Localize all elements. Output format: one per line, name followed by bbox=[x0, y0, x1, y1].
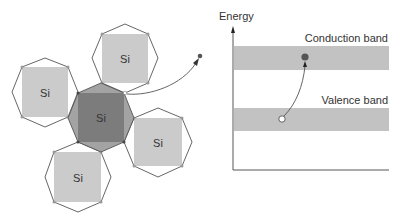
atom-label: Si bbox=[153, 137, 163, 149]
arrowhead-icon bbox=[193, 58, 199, 66]
valence-band bbox=[234, 108, 389, 131]
valence-band-label: Valence band bbox=[322, 94, 388, 106]
conduction-electron bbox=[301, 53, 308, 60]
electron-dot bbox=[198, 54, 203, 59]
atom-label: Si bbox=[40, 87, 50, 99]
energy-axis-label: Energy bbox=[219, 10, 254, 22]
valence-hole bbox=[279, 116, 285, 122]
atom-top: Si bbox=[92, 24, 158, 93]
broken-bond-hole bbox=[123, 91, 127, 95]
silicon-lattice: Si Si Si bbox=[12, 24, 202, 212]
atom-bottom: Si bbox=[45, 142, 111, 212]
y-axis-arrowhead-icon bbox=[231, 26, 235, 33]
atom-center: Si bbox=[68, 83, 134, 152]
atom-label: Si bbox=[96, 112, 106, 124]
band-diagram: Energy Conduction band Valence band bbox=[219, 10, 389, 170]
atom-label: Si bbox=[73, 172, 83, 184]
diagram-canvas: Si Si Si bbox=[0, 0, 397, 224]
atom-label: Si bbox=[120, 53, 130, 65]
conduction-band-label: Conduction band bbox=[305, 32, 388, 44]
conduction-band bbox=[234, 46, 389, 70]
